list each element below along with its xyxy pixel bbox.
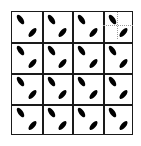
tile-cell [42,42,72,73]
tile-cell [103,42,133,73]
ellipse-top-left [15,76,25,88]
tile-cell [103,73,133,104]
tile-cell [42,11,72,42]
ellipse-top-left [46,45,56,57]
ellipse-bottom-right [88,89,99,101]
ellipse-bottom-right [27,120,38,132]
tile-cell [103,104,133,135]
tile-cell [11,11,42,42]
ellipse-bottom-right [27,89,38,101]
tile-cell [103,11,133,42]
ellipse-bottom-right [118,27,129,39]
ellipse-top-left [46,107,56,119]
tile-cell [11,104,42,135]
ellipse-top-left [15,45,25,57]
ellipse-top-left [76,76,86,88]
ellipse-bottom-right [27,58,38,70]
ellipse-top-left [76,45,86,57]
tile-cell [11,73,42,104]
ellipse-bottom-right [57,27,68,39]
tile-cell [72,42,103,73]
ellipse-bottom-right [27,27,38,39]
tile-cell [72,73,103,104]
ellipse-bottom-right [57,120,68,132]
guide-line-horizontal [103,25,133,26]
ellipse-top-left [107,76,117,88]
ellipse-bottom-right [88,58,99,70]
tile-cell [42,104,72,135]
ellipse-top-left [15,14,25,26]
ellipse-top-left [76,14,86,26]
ellipse-top-left [15,107,25,119]
ellipse-top-left [46,14,56,26]
tile-cell [72,11,103,42]
ellipse-top-left [107,107,117,119]
tile-cell [42,73,72,104]
ellipse-bottom-right [118,89,129,101]
tile-cell [72,104,103,135]
ellipse-bottom-right [57,89,68,101]
ellipse-bottom-right [57,58,68,70]
ellipse-top-left [76,107,86,119]
ellipse-bottom-right [118,58,129,70]
ellipse-bottom-right [88,120,99,132]
ellipse-bottom-right [88,27,99,39]
ellipse-top-left [107,45,117,57]
ellipse-bottom-right [118,120,129,132]
ellipse-top-left [46,76,56,88]
tile-cell [11,42,42,73]
